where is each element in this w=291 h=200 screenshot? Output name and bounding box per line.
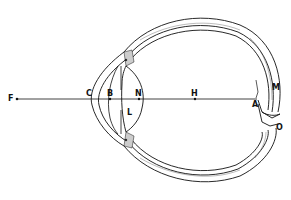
- point-h: [194, 98, 196, 100]
- label-m: M: [272, 84, 280, 92]
- label-c: C: [86, 90, 92, 98]
- retina: [256, 80, 258, 98]
- label-o: O: [276, 124, 283, 132]
- point-n: [138, 98, 140, 100]
- label-f: F: [8, 95, 13, 103]
- label-b: B: [107, 90, 113, 98]
- eye-diagram: [0, 0, 291, 200]
- label-h: H: [191, 90, 198, 98]
- label-n: N: [135, 90, 142, 98]
- label-a: A: [252, 101, 258, 109]
- point-b: [109, 98, 111, 100]
- label-l: L: [127, 109, 132, 117]
- point-f: [16, 98, 19, 101]
